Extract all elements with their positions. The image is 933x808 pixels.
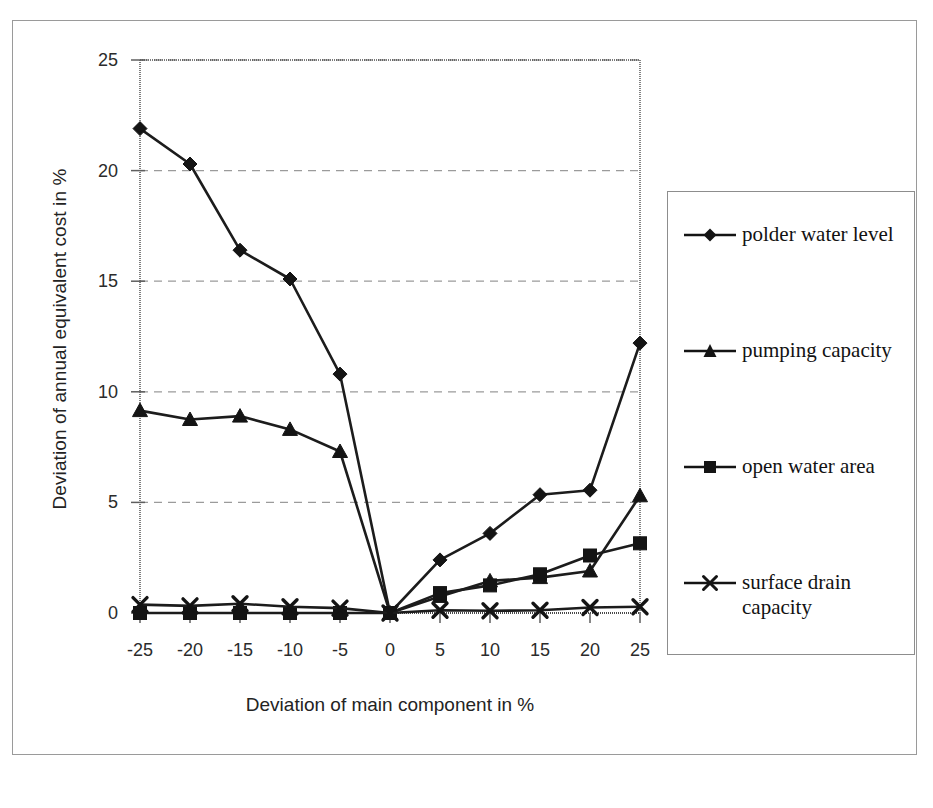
y-tick-label: 25 <box>74 51 118 69</box>
x-tick-label: -5 <box>315 641 365 659</box>
legend-label: pumping capacity <box>738 338 892 363</box>
line-chart: 0510152025 -25-20-15-10-50510152025 Devi… <box>0 0 933 808</box>
x-tick-label: -20 <box>165 641 215 659</box>
x-tick-label: 0 <box>365 641 415 659</box>
x-tick-label: 15 <box>515 641 565 659</box>
legend-item-polder-water-level: polder water level <box>668 222 916 247</box>
chart-legend: polder water level pumping capacity open… <box>667 191 915 655</box>
cross-marker-icon <box>682 571 738 595</box>
plot-background <box>140 60 640 613</box>
x-tick-label: -15 <box>215 641 265 659</box>
y-tick-label: 0 <box>74 604 118 622</box>
legend-item-surface-drain-capacity: surface drain capacity <box>668 570 916 620</box>
x-axis-title: Deviation of main component in % <box>140 694 640 716</box>
x-tick-label: -25 <box>115 641 165 659</box>
y-tick-label: 10 <box>74 383 118 401</box>
legend-label: polder water level <box>738 222 894 247</box>
data-point-square <box>434 587 447 600</box>
legend-label: surface drain capacity <box>738 570 912 620</box>
data-point-square <box>534 568 547 581</box>
data-point-square <box>484 579 497 592</box>
x-tick-label: 25 <box>615 641 665 659</box>
y-tick-label: 5 <box>74 493 118 511</box>
legend-item-open-water-area: open water area <box>668 454 916 479</box>
y-tick-label: 20 <box>74 162 118 180</box>
x-tick-label: 20 <box>565 641 615 659</box>
legend-label: open water area <box>738 454 875 479</box>
data-point-square <box>584 549 597 562</box>
triangle-marker-icon <box>682 339 738 363</box>
data-point-square <box>634 537 647 550</box>
legend-item-pumping-capacity: pumping capacity <box>668 338 916 363</box>
figure-root: 0510152025 -25-20-15-10-50510152025 Devi… <box>0 0 933 808</box>
x-tick-label: 5 <box>415 641 465 659</box>
x-tick-label: 10 <box>465 641 515 659</box>
y-tick-label: 15 <box>74 272 118 290</box>
diamond-marker-icon <box>682 223 738 247</box>
y-axis-title: Deviation of annual equivalent cost in % <box>49 79 71 599</box>
x-tick-label: -10 <box>265 641 315 659</box>
square-marker-icon <box>682 455 738 479</box>
